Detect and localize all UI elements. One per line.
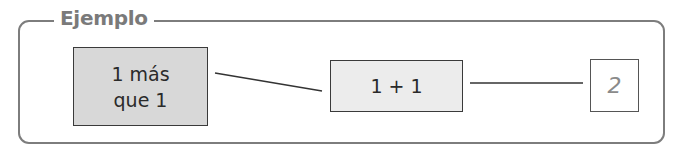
phrase-line-2: que 1 (111, 87, 169, 113)
expression-text: 1 + 1 (370, 73, 422, 99)
phrase-line-1: 1 más (111, 61, 169, 87)
answer-text: 2 (608, 73, 622, 99)
connector-1-2 (215, 73, 322, 91)
phrase-box: 1 más que 1 (73, 47, 208, 126)
expression-box: 1 + 1 (330, 60, 463, 112)
answer-box: 2 (590, 59, 639, 112)
